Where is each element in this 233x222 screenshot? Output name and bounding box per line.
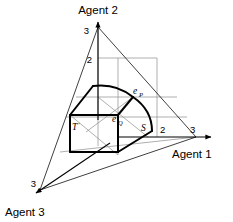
label-eP-subscript: P xyxy=(138,91,143,98)
edge-inner-ray xyxy=(118,97,133,115)
axis-title-agent2: Agent 2 xyxy=(78,4,118,16)
axis-title-agent1: Agent 1 xyxy=(172,148,212,160)
tick-agent1-2: 2 xyxy=(160,124,165,135)
tick-agent3-3: 3 xyxy=(31,178,36,189)
grid-lines xyxy=(60,27,196,155)
label-eP: e xyxy=(133,86,137,96)
label-S: S xyxy=(141,123,146,133)
label-eQ-subscript: Q xyxy=(118,119,123,126)
arc-upper xyxy=(93,85,133,97)
figure-canvas: 3 2 2 3 3 Agent 2 Agent 1 Agent 3 e P e … xyxy=(0,0,233,222)
label-eQ: e xyxy=(112,114,116,124)
edge-lower-right xyxy=(118,131,152,152)
triangle-edge-31 xyxy=(40,27,98,190)
axis-title-agent3: Agent 3 xyxy=(5,206,45,218)
simplex-figure: 3 2 2 3 3 Agent 2 Agent 1 Agent 3 e P e … xyxy=(0,0,233,222)
tick-labels: 3 2 2 3 3 xyxy=(31,25,196,189)
tick-agent1-3: 3 xyxy=(190,124,195,135)
tick-agent2-2: 2 xyxy=(87,54,92,65)
label-Tprime-prime: ' xyxy=(78,121,80,128)
tick-agent2-3: 3 xyxy=(84,25,89,36)
edge-left-upper xyxy=(70,86,93,115)
